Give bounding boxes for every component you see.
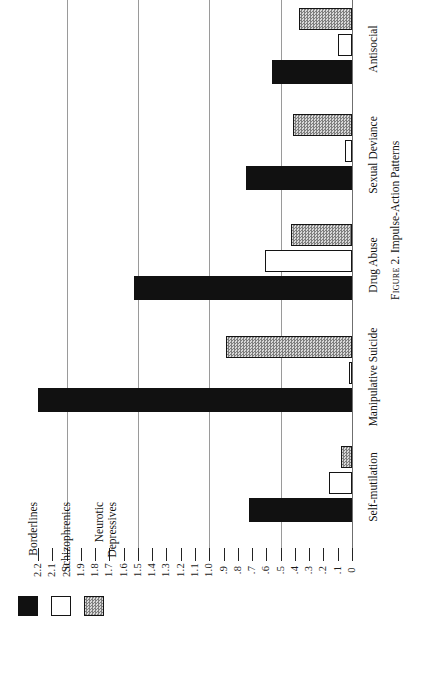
tick-label: 1.1 — [189, 555, 200, 585]
bar — [249, 498, 352, 522]
tick-label: 1.0 — [203, 555, 214, 585]
chart-plot-area — [0, 0, 360, 548]
tick-label: .6 — [260, 555, 271, 585]
bar — [293, 114, 352, 136]
tick-label: 1.3 — [160, 555, 171, 585]
bar — [338, 34, 352, 56]
legend-label: Borderlines — [27, 502, 40, 622]
figure-caption-label: Figure — [389, 267, 401, 300]
tick-label: .1 — [332, 555, 343, 585]
bar — [134, 276, 352, 300]
tick-label: .9 — [218, 555, 229, 585]
tick-label: 2.1 — [46, 555, 57, 585]
gridline — [138, 0, 139, 548]
bar — [226, 336, 352, 358]
tick-label: 1.2 — [175, 555, 186, 585]
figure-caption-number: 2. — [389, 256, 401, 265]
bar — [291, 224, 352, 246]
figure-container: 2.22.12.01.91.81.71.61.51.41.31.21.11.0.… — [0, 0, 423, 695]
bar — [299, 8, 352, 30]
tick-label: 1.6 — [118, 555, 129, 585]
bar — [272, 60, 352, 84]
value-axis-ticks: 2.22.12.01.91.81.71.61.51.41.31.21.11.0.… — [0, 548, 360, 594]
legend-entry: Borderlines — [18, 596, 44, 616]
legend-label: Schizophrenics — [60, 502, 73, 622]
bar — [341, 446, 352, 468]
tick-label: .5 — [275, 555, 286, 585]
tick-label: .8 — [232, 555, 243, 585]
legend-entry: Neurotic Depressives — [84, 596, 110, 616]
tick-label: .3 — [303, 555, 314, 585]
figure-caption-title: Impulse-Action Patterns — [389, 141, 401, 253]
bar — [345, 140, 352, 162]
tick-label: .2 — [317, 555, 328, 585]
tick-label: 1.9 — [75, 555, 86, 585]
gridline — [67, 0, 68, 548]
bar — [265, 250, 352, 272]
chart-legend: BorderlinesSchizophrenicsNeurotic Depres… — [18, 596, 148, 692]
legend-label: Neurotic Depressives — [93, 502, 118, 622]
category-axis-labels: Self-mutilationManipulative SuicideDrug … — [352, 0, 394, 548]
figure-caption: Figure 2. Impulse-Action Patterns — [389, 40, 401, 300]
bar — [38, 388, 352, 412]
gridline — [209, 0, 210, 548]
category-label: Antisocial — [366, 0, 380, 129]
tick-label: .7 — [246, 555, 257, 585]
legend-entry: Schizophrenics — [51, 596, 77, 616]
bar — [329, 472, 352, 494]
tick-label: 1.4 — [146, 555, 157, 585]
tick-label: .4 — [289, 555, 300, 585]
tick-label: 0 — [346, 555, 357, 585]
bar — [246, 166, 352, 190]
tick-label: 1.5 — [132, 555, 143, 585]
